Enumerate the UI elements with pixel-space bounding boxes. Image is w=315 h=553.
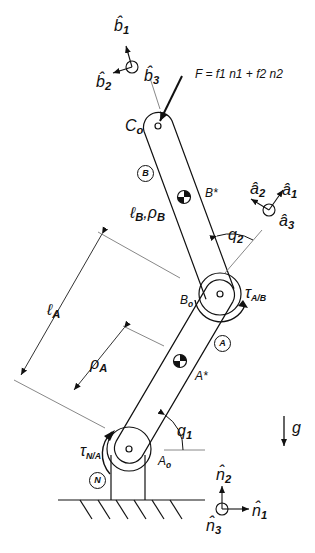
label-a1: â1 [282,182,297,201]
label-rhoA: ρA [90,356,107,375]
mass-center-B [178,191,191,204]
label-n2: n̂2 [216,467,231,486]
body-A-label: A [214,335,231,352]
label-n3: n̂3 [206,518,221,537]
joint-A0 [107,427,151,471]
length-lA-dimension [21,234,102,375]
label-a2: â2 [250,181,265,200]
mass-center-A [174,355,187,368]
point-C0 [155,123,161,129]
label-n1: n̂1 [252,503,267,522]
label-lA: ℓA [47,302,60,321]
label-a3: â3 [279,213,294,232]
label-q2: q2 [228,227,243,246]
body-N-label: N [89,472,106,489]
label-B0: Bo [180,294,193,308]
force-label: F = f1 n1 + f2 n2 [195,68,283,80]
label-b1: b̂1 [114,18,129,37]
label-A0: Ao [158,455,171,469]
label-b2: b̂2 [96,74,111,93]
label-C0: Co [125,118,143,137]
label-A-star: A* [195,370,208,382]
link-A [114,280,234,463]
ground-N [58,455,205,519]
label-b3: b̂3 [144,68,159,87]
label-B-star: B* [205,187,218,199]
label-g: g [292,420,301,436]
label-tau-A-B: τA/B [245,285,266,302]
body-B-label: B [137,165,154,182]
frame-n-triad [216,486,249,515]
torque-arrow-A-B [195,300,245,322]
force-F-arrow [160,76,182,121]
frame-b-triad [113,46,138,73]
label-tau-N-A: τN/A [80,443,101,460]
label-q1: q1 [177,423,192,442]
label-lB-rhoB: ℓB,ρB [130,205,165,224]
